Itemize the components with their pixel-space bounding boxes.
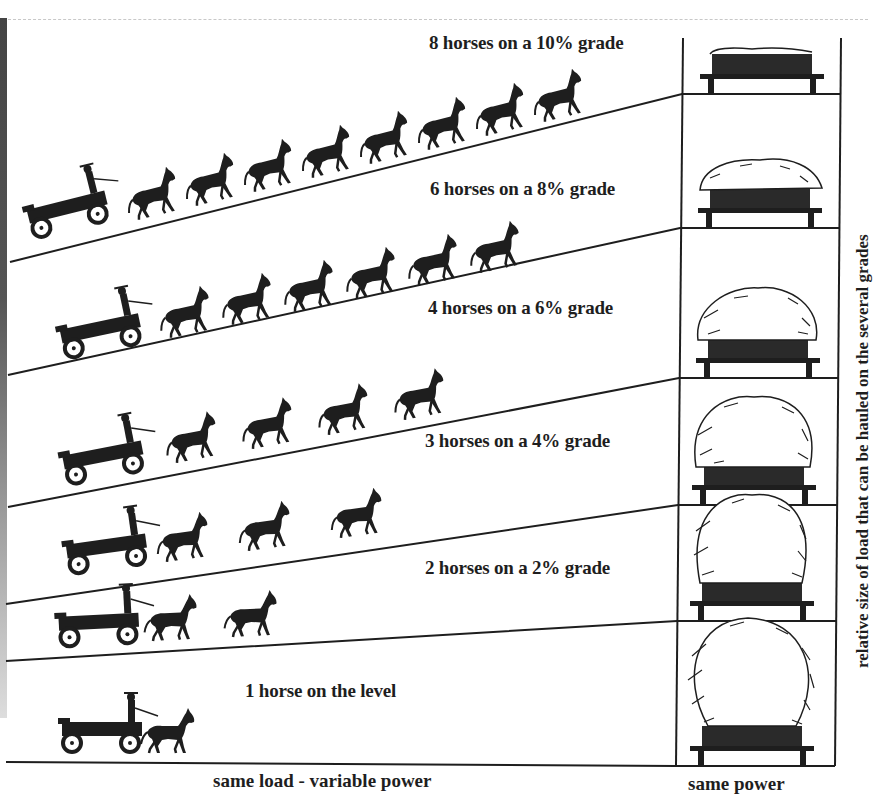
- team-1-horse: [58, 693, 194, 753]
- grade-label-2pct: 2 horses on a 2% grade: [425, 557, 610, 579]
- team-3-horses: [58, 487, 386, 575]
- grade-diagram-artwork: [0, 0, 889, 797]
- grade-label-level: 1 horse on the level: [245, 680, 396, 702]
- left-caption: same load - variable power: [213, 770, 431, 792]
- grade-label-6pct: 4 horses on a 6% grade: [428, 297, 613, 319]
- grade-label-10pct: 8 horses on a 10% grade: [429, 32, 623, 54]
- hay-load-2pct: [690, 495, 814, 621]
- hay-load-10pct: [700, 48, 824, 94]
- hay-load-6pct: [696, 288, 820, 378]
- grade-label-8pct: 6 horses on a 8% grade: [430, 178, 615, 200]
- hay-load-8pct: [698, 159, 822, 228]
- right-caption: same power: [688, 773, 785, 795]
- hay-load-level: [688, 618, 814, 766]
- hay-load-4pct: [692, 397, 816, 505]
- team-6-horses: [50, 219, 526, 360]
- team-8-horses: [16, 67, 589, 240]
- team-4-horses: [53, 367, 450, 486]
- vertical-axis-label: relative size of load that can be hauled…: [853, 234, 873, 668]
- grade-label-4pct: 3 horses on a 4% grade: [425, 430, 610, 452]
